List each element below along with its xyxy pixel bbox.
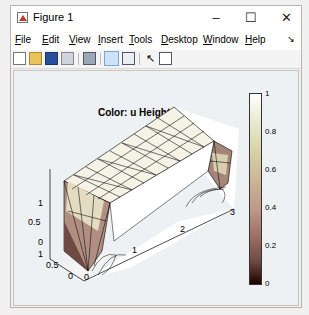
minimize-button[interactable]: – <box>205 9 227 27</box>
menu-bar: File Edit View Insert Tools Desktop Wind… <box>11 30 301 50</box>
hide-plot-tools-icon[interactable] <box>104 51 119 66</box>
insert-colorbar-icon[interactable] <box>159 52 172 65</box>
menu-view[interactable]: View <box>69 34 91 45</box>
z-tick: 0 <box>38 237 43 247</box>
menu-insert[interactable]: Insert <box>98 34 123 45</box>
menu-tools[interactable]: Tools <box>129 34 152 45</box>
close-button[interactable]: ✕ <box>275 9 297 27</box>
colorbar-tick: 0 <box>265 279 269 288</box>
x-tick: 0 <box>84 272 89 282</box>
y-tick: 0.5 <box>46 260 59 270</box>
y-tick: 0 <box>68 271 73 281</box>
menu-help[interactable]: Help <box>245 34 266 45</box>
toolbar: ↖ <box>11 50 301 69</box>
dock-arrow-icon[interactable]: ↘ <box>287 34 295 44</box>
colorbar-tick: 1 <box>265 89 269 98</box>
colorbar-tick: 0.2 <box>265 241 276 250</box>
open-file-icon[interactable] <box>29 52 42 65</box>
maximize-button[interactable]: ☐ <box>240 9 262 27</box>
save-icon[interactable] <box>45 52 58 65</box>
edit-plot-arrow-icon[interactable]: ↖ <box>144 52 157 65</box>
window-title: Figure 1 <box>33 11 73 23</box>
title-bar[interactable]: Figure 1 – ☐ ✕ <box>11 6 301 30</box>
menu-window[interactable]: Window <box>203 34 239 45</box>
y-tick: 1 <box>38 249 43 259</box>
menu-desktop[interactable]: Desktop <box>161 34 198 45</box>
figure-canvas[interactable]: Color: u Height: u <box>13 70 299 306</box>
show-plot-tools-icon[interactable] <box>122 52 135 65</box>
x-tick: 1 <box>132 245 137 255</box>
link-plot-icon[interactable] <box>83 52 96 65</box>
new-figure-icon[interactable] <box>13 52 26 65</box>
toolbar-separator <box>100 53 101 65</box>
x-tick: 2 <box>180 224 185 234</box>
figure-window: Figure 1 – ☐ ✕ File Edit View Insert Too… <box>10 5 302 308</box>
toolbar-separator <box>78 53 79 65</box>
z-tick: 1 <box>38 198 43 208</box>
menu-edit[interactable]: Edit <box>42 34 59 45</box>
colorbar-tick: 0.4 <box>265 203 276 212</box>
colorbar[interactable] <box>249 93 262 285</box>
toolbar-separator <box>139 53 140 65</box>
colorbar-tick: 0.8 <box>265 127 276 136</box>
x-tick: 3 <box>230 207 235 217</box>
print-icon[interactable] <box>61 52 74 65</box>
z-tick: 0.5 <box>28 217 41 227</box>
matlab-figure-icon <box>17 12 28 23</box>
colorbar-tick: 0.6 <box>265 165 276 174</box>
menu-file[interactable]: File <box>15 34 31 45</box>
